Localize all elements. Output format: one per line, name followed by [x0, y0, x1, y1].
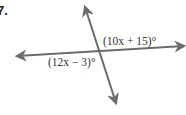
problem-number: 7. [0, 3, 8, 18]
angle-label-lower-left: (12x − 3)° [48, 56, 96, 69]
transversal-line [85, 7, 116, 103]
angle-label-upper-right: (10x + 15)° [103, 35, 157, 48]
vertical-angles-diagram: 7. (10x + 15)° (12x − 3)° [0, 0, 186, 115]
